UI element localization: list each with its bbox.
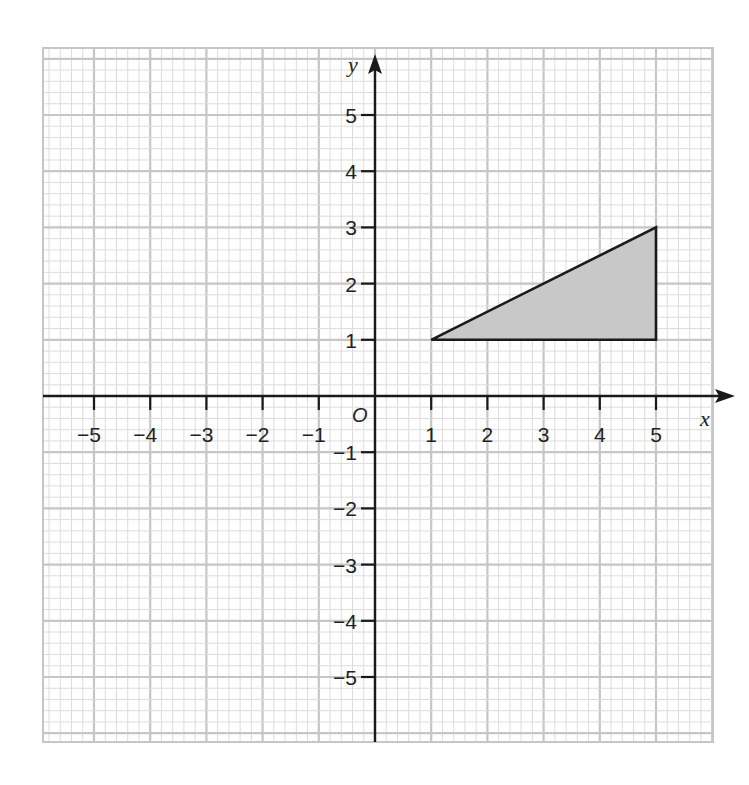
y-tick-label: −2 [333, 497, 357, 520]
y-tick-label: 3 [345, 216, 357, 239]
grid-lines [43, 48, 713, 742]
x-tick-label: 4 [594, 423, 606, 446]
x-tick-label: 1 [425, 423, 437, 446]
x-tick-label: −3 [189, 423, 213, 446]
coordinate-grid-chart: −5−4−3−2−11234554321−1−2−3−4−5xyO [0, 0, 749, 785]
x-tick-label: −4 [133, 423, 157, 446]
axes [43, 54, 735, 742]
x-tick-label: 2 [482, 423, 494, 446]
y-tick-label: 5 [345, 104, 357, 127]
y-tick-label: 4 [345, 160, 357, 183]
x-tick-label: −2 [246, 423, 270, 446]
y-axis-label: y [346, 52, 358, 77]
origin-label: O [352, 404, 368, 426]
x-tick-label: −5 [77, 423, 101, 446]
x-tick-label: 3 [538, 423, 550, 446]
x-axis-label: x [699, 406, 710, 431]
y-tick-label: 1 [345, 329, 357, 352]
y-tick-label: −1 [333, 441, 357, 464]
x-tick-label: 5 [650, 423, 662, 446]
y-tick-label: −4 [333, 610, 357, 633]
y-tick-label: 2 [345, 273, 357, 296]
y-tick-label: −5 [333, 666, 357, 689]
y-tick-label: −3 [333, 554, 357, 577]
x-tick-label: −1 [302, 423, 326, 446]
tick-labels: −5−4−3−2−11234554321−1−2−3−4−5xyO [77, 52, 710, 689]
